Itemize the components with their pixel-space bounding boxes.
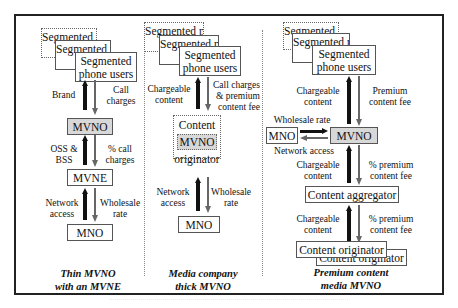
horizontal-arrow-pair-icon <box>300 128 330 142</box>
arrow-pair-icon <box>80 135 100 169</box>
segment-box-front: Segmented phone users <box>75 52 137 82</box>
originator-label: originator <box>174 153 220 166</box>
chargeable-content-label: Chargeable content <box>293 160 343 182</box>
segment-label: Segmented phone users <box>183 49 238 74</box>
column-divider-1 <box>144 30 145 276</box>
brand-label: Brand <box>52 90 75 101</box>
caption-premium-line1: Premium content <box>305 266 397 279</box>
node-mvno: MVNO <box>330 127 378 144</box>
wholesale-rate-label: Wholesale rate <box>100 198 140 220</box>
caption-media-line2: thick MVNO <box>160 280 246 293</box>
node-mno: MNO <box>266 127 298 144</box>
call-charges-premium-label: Call charges & premium content fee <box>205 80 260 113</box>
node-mvno: MVNO <box>177 134 217 150</box>
pct-premium-fee-label: % premium content fee <box>362 160 420 182</box>
arrow-pair-icon <box>344 145 364 187</box>
oss-bss-label: OSS & BSS <box>48 144 80 166</box>
chargeable-content-label: Chargeable content <box>293 86 343 108</box>
arrow-pair-icon <box>344 205 364 245</box>
arrow-pair-icon <box>344 76 364 128</box>
pct-call-charges-label: % call charges <box>101 144 139 166</box>
node-mno: MNO <box>178 216 220 233</box>
network-access-label: Network access <box>44 198 80 220</box>
chargeable-content-label: Chargeable content <box>293 214 343 236</box>
arrow-pair-icon <box>80 80 100 118</box>
caption-premium-line2: media MVNO <box>305 279 397 292</box>
node-content-aggregator: Content aggregator <box>305 186 399 203</box>
premium-content-fee-label: Premium content fee <box>362 86 418 108</box>
node-content-originator: Content originator <box>296 241 387 258</box>
network-access-label: Network access <box>154 187 192 209</box>
segment-box-front: Segmented phone users <box>179 46 241 76</box>
segment-label: Segmented phone users <box>79 55 134 80</box>
caption-thin-mvno-line1: Thin MVNO <box>48 267 128 280</box>
segment-box-front: Segmented phone users <box>312 45 376 75</box>
segment-label: Segmented phone users <box>317 48 372 73</box>
node-mno: MNO <box>67 224 113 241</box>
arrow-pair-icon <box>80 188 100 224</box>
network-access-label: Network access <box>262 146 346 157</box>
call-charges-label: Call charges <box>103 85 139 107</box>
node-mvne: MVNE <box>67 169 113 186</box>
wholesale-rate-label: Wholesale rate <box>262 115 342 126</box>
wholesale-rate-label: Wholesale rate <box>210 187 252 209</box>
cropped-caption-fragment <box>110 299 350 306</box>
pct-premium-fee-label: % premium content fee <box>362 214 420 236</box>
chargeable-content-label: Chargeable content <box>144 84 194 106</box>
content-label: Content <box>174 119 220 132</box>
node-mvno: MVNO <box>67 118 113 135</box>
caption-media-line1: Media company <box>160 267 246 280</box>
caption-thin-mvno-line2: with an MVNE <box>48 280 128 293</box>
content-originator-mvno-box: Content MVNO originator <box>173 115 221 159</box>
